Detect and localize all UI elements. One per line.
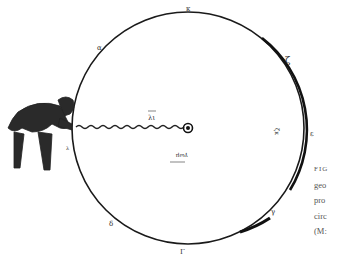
spring-coil [76, 126, 184, 129]
label-inner-lower: γωμ [176, 152, 188, 160]
caption-line: circ [314, 209, 342, 225]
caption-line: geo [314, 178, 342, 194]
label-lower-left: δ [109, 220, 113, 228]
figure-caption: FIG geo pro circ (M: [314, 162, 342, 240]
circle-diagram: κ ζ ε γ Γ δ α λ λι ζκ γωμ [0, 0, 342, 261]
label-right: ε [310, 130, 314, 138]
label-lower-right: γ [271, 208, 275, 216]
label-top: κ [186, 5, 191, 13]
caption-line: pro [314, 193, 342, 209]
thick-arc-lower [240, 218, 270, 232]
label-bottom: Γ [180, 248, 185, 256]
caption-line: (M: [314, 224, 342, 240]
caption-line: FIG [314, 162, 342, 178]
man-figure [8, 97, 74, 170]
engraving-figure: κ ζ ε γ Γ δ α λ λι ζκ γωμ FIG geo pro ci… [0, 0, 342, 261]
label-inner-right: ζκ [273, 128, 281, 135]
center-dot [186, 126, 190, 130]
label-inner-upper: λι [148, 114, 155, 122]
label-left: λ [66, 145, 70, 151]
label-upper-left: α [97, 44, 102, 52]
label-upper-right: ζ [285, 54, 291, 65]
